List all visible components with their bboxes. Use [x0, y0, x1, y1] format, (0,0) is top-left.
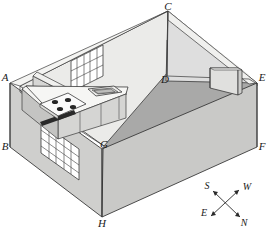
vertex-label-A: A [1, 71, 9, 83]
vertex-label-H: H [97, 217, 107, 229]
stove-burner-1 [52, 100, 58, 104]
vertex-label-E: E [258, 71, 266, 83]
compass-label-S: S [205, 180, 210, 191]
vertex-label-B: B [2, 140, 9, 152]
compass-label-N: N [240, 217, 249, 228]
stove-burner-3 [57, 107, 63, 111]
compass-label-E: E [200, 207, 207, 218]
vertex-label-C: C [164, 0, 172, 12]
diagram-canvas: A B C D E F G H S W E N [0, 0, 267, 234]
compass-label-W: W [243, 181, 253, 192]
compass-rose: S W E N [200, 180, 253, 228]
stove-burner-2 [65, 98, 71, 102]
compass-axis-sn [213, 191, 240, 217]
vertex-label-F: F [258, 140, 266, 152]
partition-wall-side [238, 68, 242, 95]
vertex-label-D: D [160, 73, 169, 85]
kitchen-isometric-drawing: A B C D E F G H S W E N [0, 0, 267, 234]
stove-burner-4 [70, 105, 76, 109]
vertex-label-G: G [100, 138, 108, 150]
partition-wall-top [210, 68, 242, 70]
